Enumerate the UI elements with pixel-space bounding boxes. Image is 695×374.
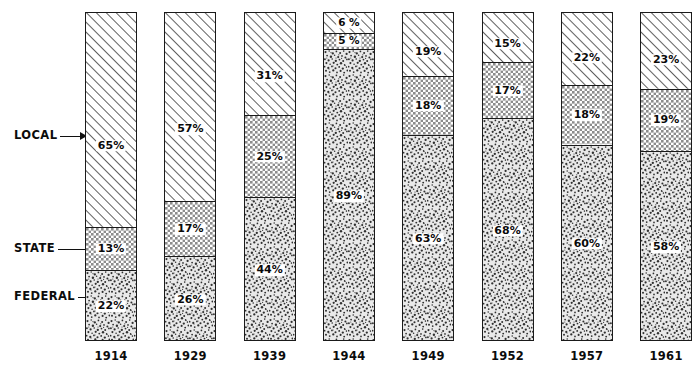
segment-value-state-1944: 5 %	[336, 36, 361, 47]
bar-1914[interactable]: 65%13%22%	[85, 12, 137, 341]
segment-federal-1961[interactable]: 58%	[641, 151, 691, 341]
year-label-1961: 1961	[634, 349, 695, 363]
segment-local-1939[interactable]: 31%	[245, 13, 295, 115]
segment-value-federal-1957: 60%	[572, 238, 602, 250]
segment-local-1914[interactable]: 65%	[86, 13, 136, 227]
segment-value-federal-1961: 58%	[651, 241, 681, 253]
segment-value-federal-1952: 68%	[492, 225, 522, 237]
year-label-1949: 1949	[396, 349, 460, 363]
year-label-1939: 1939	[238, 349, 302, 363]
segment-value-state-1939: 25%	[254, 151, 284, 163]
segment-state-1929[interactable]: 17%	[165, 201, 215, 257]
segment-federal-1914[interactable]: 22%	[86, 270, 136, 341]
segment-value-local-1914: 65%	[96, 140, 126, 152]
segment-state-1944[interactable]: 5 %	[324, 33, 374, 49]
segment-state-1961[interactable]: 19%	[641, 89, 691, 152]
segment-state-1914[interactable]: 13%	[86, 227, 136, 270]
bar-1957[interactable]: 22%18%60%	[561, 12, 613, 341]
year-label-1929: 1929	[158, 349, 222, 363]
segment-value-federal-1949: 63%	[413, 233, 443, 245]
segment-state-1939[interactable]: 25%	[245, 115, 295, 197]
bar-1961[interactable]: 23%19%58%	[640, 12, 692, 341]
segment-federal-1939[interactable]: 44%	[245, 197, 295, 341]
segment-value-federal-1929: 26%	[175, 294, 205, 306]
bar-1944[interactable]: 6 %5 %89%	[323, 12, 375, 341]
year-label-1957: 1957	[555, 349, 619, 363]
segment-local-1949[interactable]: 19%	[403, 13, 453, 76]
segment-federal-1952[interactable]: 68%	[483, 118, 533, 341]
category-label-state: STATE	[14, 241, 92, 257]
category-label-state-text: STATE	[14, 243, 55, 255]
segment-state-1957[interactable]: 18%	[562, 85, 612, 144]
segment-value-local-1944: 6 %	[336, 17, 361, 28]
segment-value-local-1957: 22%	[572, 52, 602, 64]
segment-value-local-1939: 31%	[254, 70, 284, 82]
segment-federal-1957[interactable]: 60%	[562, 145, 612, 341]
category-label-federal-text: FEDERAL	[14, 291, 75, 303]
segment-local-1952[interactable]: 15%	[483, 13, 533, 62]
segment-value-local-1949: 19%	[413, 46, 443, 58]
bar-1929[interactable]: 57%17%26%	[164, 12, 216, 341]
segment-federal-1944[interactable]: 89%	[324, 49, 374, 341]
segment-federal-1949[interactable]: 63%	[403, 135, 453, 341]
segment-local-1929[interactable]: 57%	[165, 13, 215, 201]
segment-local-1944[interactable]: 6 %	[324, 13, 374, 33]
year-label-1944: 1944	[317, 349, 381, 363]
segment-value-state-1961: 19%	[651, 115, 681, 127]
bar-1949[interactable]: 19%18%63%	[402, 12, 454, 341]
segment-local-1957[interactable]: 22%	[562, 13, 612, 85]
segment-value-state-1929: 17%	[175, 223, 205, 235]
segment-federal-1929[interactable]: 26%	[165, 256, 215, 341]
bar-1952[interactable]: 15%17%68%	[482, 12, 534, 341]
category-label-local: LOCAL	[14, 128, 87, 144]
year-label-1952: 1952	[476, 349, 540, 363]
segment-value-state-1914: 13%	[96, 243, 126, 255]
category-label-local-text: LOCAL	[14, 130, 57, 142]
segment-value-state-1949: 18%	[413, 100, 443, 112]
segment-state-1952[interactable]: 17%	[483, 62, 533, 118]
segment-value-federal-1944: 89%	[334, 190, 364, 202]
segment-value-federal-1939: 44%	[254, 264, 284, 276]
segment-local-1961[interactable]: 23%	[641, 13, 691, 89]
segment-value-state-1957: 18%	[572, 110, 602, 122]
stacked-bar-chart: LOCAL STATE FEDERAL 65%13%22%57%17%26%31…	[0, 0, 695, 374]
segment-value-local-1952: 15%	[492, 38, 522, 50]
year-label-1914: 1914	[79, 349, 143, 363]
segment-state-1949[interactable]: 18%	[403, 76, 453, 135]
bar-1939[interactable]: 31%25%44%	[244, 12, 296, 341]
arrow-icon-local	[60, 132, 87, 141]
segment-value-state-1952: 17%	[492, 85, 522, 97]
segment-value-federal-1914: 22%	[96, 301, 126, 313]
segment-value-local-1961: 23%	[651, 54, 681, 66]
segment-value-local-1929: 57%	[175, 123, 205, 135]
